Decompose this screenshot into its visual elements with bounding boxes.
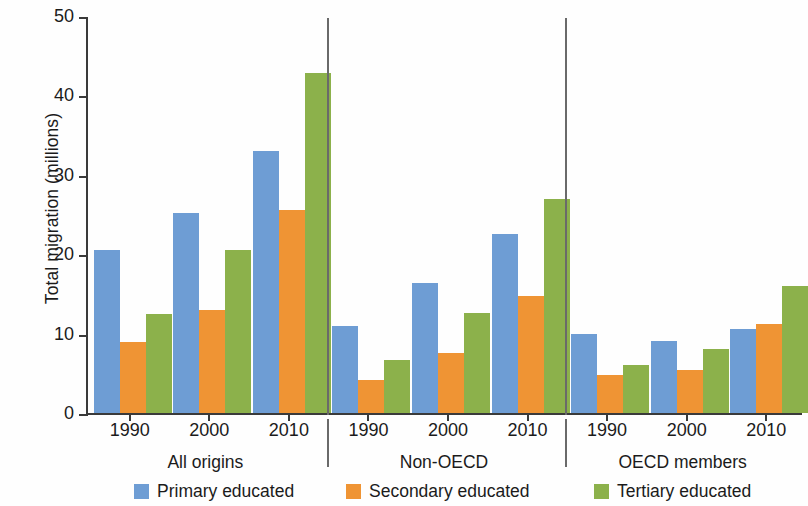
group-separator — [327, 18, 329, 415]
bar-primary-all-origins-1990 — [94, 250, 120, 413]
y-tick-label: 20 — [54, 244, 74, 265]
bar-secondary-all-origins-2010 — [279, 210, 305, 413]
y-tick-mark — [79, 96, 88, 98]
group-label-oecd-members: OECD members — [563, 452, 803, 473]
bar-primary-all-origins-2000 — [173, 213, 199, 413]
legend-swatch-icon — [134, 484, 149, 499]
y-tick-mark — [79, 335, 88, 337]
x-tick-label-all-origins-2000: 2000 — [169, 420, 249, 441]
bar-secondary-oecd-members-2010 — [756, 324, 782, 413]
bar-secondary-all-origins-2000 — [199, 310, 225, 413]
x-tick-mark — [288, 415, 290, 421]
x-tick-mark — [765, 415, 767, 421]
x-tick-label-all-origins-2010: 2010 — [249, 420, 329, 441]
bar-primary-non-oecd-2010 — [492, 234, 518, 413]
bar-tertiary-all-origins-2000 — [225, 250, 251, 413]
x-tick-label-non-oecd-2010: 2010 — [488, 420, 568, 441]
group-label-all-origins: All origins — [85, 452, 325, 473]
x-axis-tick-labels: 199020002010199020002010199020002010 — [86, 420, 802, 450]
x-tick-label-all-origins-1990: 1990 — [90, 420, 170, 441]
legend-item-tertiary-educated[interactable]: Tertiary educated — [594, 481, 751, 502]
x-tick-label-non-oecd-1990: 1990 — [328, 420, 408, 441]
bar-secondary-oecd-members-1990 — [597, 375, 623, 413]
bar-primary-non-oecd-1990 — [332, 326, 358, 413]
legend-swatch-icon — [594, 484, 609, 499]
bar-secondary-all-origins-1990 — [120, 342, 146, 413]
x-tick-mark — [686, 415, 688, 421]
bar-primary-all-origins-2010 — [253, 151, 279, 413]
y-tick-label: 0 — [64, 403, 74, 424]
x-tick-mark — [367, 415, 369, 421]
plot-area: 01020304050 — [86, 18, 802, 415]
x-tick-label-non-oecd-2000: 2000 — [408, 420, 488, 441]
y-tick-label: 30 — [54, 165, 74, 186]
legend-swatch-icon — [346, 484, 361, 499]
bar-secondary-oecd-members-2000 — [677, 370, 703, 413]
y-tick-mark — [79, 17, 88, 19]
bar-tertiary-all-origins-1990 — [146, 314, 172, 413]
bar-tertiary-oecd-members-2000 — [703, 349, 729, 413]
bar-tertiary-non-oecd-1990 — [384, 360, 410, 413]
y-tick-mark — [79, 414, 88, 416]
bar-chart: Total migration (millions) 01020304050 1… — [0, 0, 808, 506]
chart-legend: Primary educatedSecondary educatedTertia… — [86, 481, 802, 505]
bar-primary-oecd-members-2000 — [651, 341, 677, 413]
x-tick-mark — [606, 415, 608, 421]
bar-secondary-non-oecd-1990 — [358, 380, 384, 413]
y-tick-label: 50 — [54, 6, 74, 27]
x-tick-label-oecd-members-2000: 2000 — [647, 420, 727, 441]
legend-item-secondary-educated[interactable]: Secondary educated — [346, 481, 530, 502]
legend-label: Primary educated — [157, 481, 294, 502]
x-axis-group-labels: All originsNon-OECDOECD members — [86, 452, 802, 478]
group-label-non-oecd: Non-OECD — [324, 452, 564, 473]
y-tick-mark — [79, 255, 88, 257]
bar-tertiary-non-oecd-2000 — [464, 313, 490, 413]
bar-primary-oecd-members-1990 — [571, 334, 597, 413]
group-separator — [565, 18, 567, 415]
bar-secondary-non-oecd-2000 — [438, 353, 464, 413]
bar-primary-oecd-members-2010 — [730, 329, 756, 413]
bar-secondary-non-oecd-2010 — [518, 296, 544, 414]
legend-item-primary-educated[interactable]: Primary educated — [134, 481, 294, 502]
bar-tertiary-oecd-members-2010 — [782, 286, 808, 413]
bar-primary-non-oecd-2000 — [412, 283, 438, 413]
y-tick-label: 40 — [54, 85, 74, 106]
legend-label: Secondary educated — [369, 481, 530, 502]
x-tick-label-oecd-members-2010: 2010 — [726, 420, 806, 441]
y-tick-label: 10 — [54, 324, 74, 345]
bar-tertiary-oecd-members-1990 — [623, 365, 649, 413]
y-tick-mark — [79, 176, 88, 178]
x-tick-mark — [527, 415, 529, 421]
x-tick-label-oecd-members-1990: 1990 — [567, 420, 647, 441]
x-tick-mark — [129, 415, 131, 421]
x-tick-mark — [208, 415, 210, 421]
x-tick-mark — [447, 415, 449, 421]
bars-layer — [88, 18, 802, 413]
legend-label: Tertiary educated — [617, 481, 751, 502]
